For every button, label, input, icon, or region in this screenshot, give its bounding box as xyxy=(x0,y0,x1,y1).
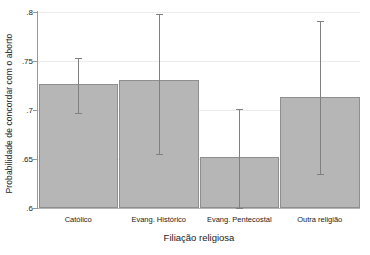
error-bar-cap-upper xyxy=(156,14,163,15)
error-bar-line xyxy=(239,109,240,208)
x-axis-spine xyxy=(38,208,360,209)
y-gridline xyxy=(38,12,360,13)
error-bar-cap-upper xyxy=(236,109,243,110)
bar-chart-figure: Probabilidade de concordar com o aborto … xyxy=(0,0,370,255)
x-tick-label: Outra religião xyxy=(280,214,361,226)
y-tick-label-text: .65 xyxy=(22,154,38,165)
y-tick-label: .8 xyxy=(0,7,38,18)
y-tick-label-text: .75 xyxy=(22,56,38,67)
y-tick-label-text: .8 xyxy=(26,7,38,18)
x-tick-label: Evang. Histórico xyxy=(119,214,200,226)
y-tick-label-text: .7 xyxy=(26,105,38,116)
error-bar-line xyxy=(78,58,79,113)
error-bar-line xyxy=(159,14,160,154)
error-bar-cap-lower xyxy=(75,113,82,114)
y-tick-label: .6 xyxy=(0,203,38,214)
y-tick-label: .75 xyxy=(0,56,38,67)
error-bar-line xyxy=(320,21,321,174)
error-bar-cap-upper xyxy=(75,58,82,59)
y-tick-label: .7 xyxy=(0,105,38,116)
y-tick-label: .65 xyxy=(0,154,38,165)
error-bar-cap-upper xyxy=(317,21,324,22)
error-bar-cap-lower xyxy=(236,208,243,209)
x-tick-label: Evang. Pentecostal xyxy=(199,214,280,226)
x-tick-label: Católico xyxy=(38,214,119,226)
y-gridline xyxy=(38,61,360,62)
x-axis-title: Filiação religiosa xyxy=(38,231,360,245)
error-bar-cap-lower xyxy=(317,174,324,175)
error-bar-cap-lower xyxy=(156,154,163,155)
y-tick-label-text: .6 xyxy=(26,203,38,214)
